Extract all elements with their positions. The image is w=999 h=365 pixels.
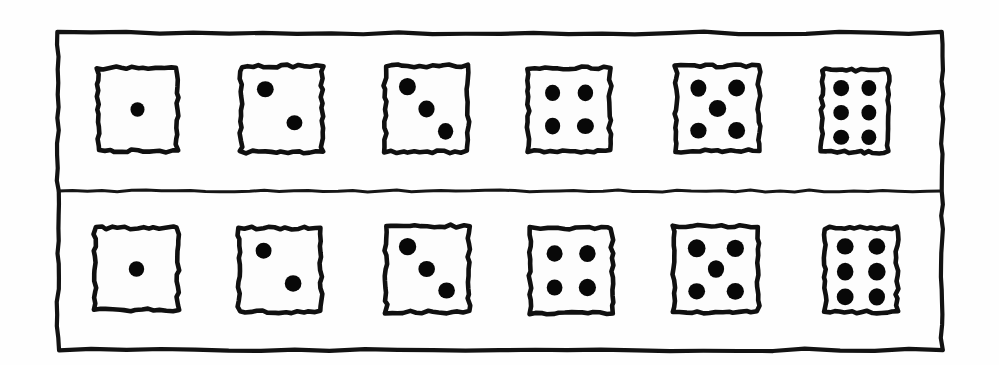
die-pip xyxy=(709,100,726,117)
bottom-row-die-one xyxy=(94,227,180,312)
top-row xyxy=(97,65,890,154)
die-pip xyxy=(545,85,560,101)
top-row-die-five xyxy=(675,65,761,153)
die-pip xyxy=(577,118,594,134)
die-pip xyxy=(579,279,596,296)
bottom-row-die-four xyxy=(529,227,614,314)
bottom-row-die-five xyxy=(673,225,760,313)
die-outline xyxy=(240,65,324,154)
die-pip xyxy=(547,245,563,261)
dice-figure xyxy=(0,0,999,365)
die-pip xyxy=(837,238,854,254)
die-pip xyxy=(868,263,886,281)
die-pip xyxy=(833,130,849,145)
die-pip xyxy=(256,243,272,259)
die-pip xyxy=(861,130,876,145)
die-outline xyxy=(529,227,614,314)
die-pip xyxy=(728,80,745,97)
die-pip xyxy=(690,123,706,139)
die-pip xyxy=(287,115,303,130)
die-pip xyxy=(869,288,885,305)
die-pip xyxy=(418,261,435,277)
die-pip xyxy=(861,105,876,121)
die-pip xyxy=(257,81,274,97)
die-pip xyxy=(545,118,560,135)
bottom-row-die-six xyxy=(824,227,899,314)
die-pip xyxy=(438,282,455,298)
die-pip xyxy=(861,80,876,96)
die-outline xyxy=(821,69,890,154)
die-pip xyxy=(727,240,744,257)
die-pip xyxy=(418,101,434,118)
row-divider-line xyxy=(58,190,941,192)
die-pip xyxy=(837,263,854,281)
die-outline xyxy=(824,227,899,314)
die-pip xyxy=(837,289,854,306)
die-pip xyxy=(399,78,416,95)
top-row-die-four xyxy=(527,67,612,153)
die-pip xyxy=(547,280,563,296)
die-pip xyxy=(129,261,144,277)
die-pip xyxy=(399,238,416,255)
die-pip xyxy=(727,283,744,300)
outer-frame xyxy=(57,32,944,351)
bottom-row-die-two xyxy=(238,227,323,313)
top-row-die-six xyxy=(821,69,890,154)
dice-figure-canvas xyxy=(0,0,999,365)
die-pip xyxy=(833,105,849,120)
die-outline xyxy=(527,67,612,153)
die-pip xyxy=(579,245,595,262)
die-pip xyxy=(690,79,706,96)
die-pip xyxy=(131,102,145,117)
die-pip xyxy=(578,84,593,101)
top-row-die-one xyxy=(97,67,179,153)
die-pip xyxy=(285,275,302,292)
top-row-die-two xyxy=(240,65,324,154)
die-pip xyxy=(438,123,453,140)
die-pip xyxy=(688,283,705,299)
die-pip xyxy=(708,260,724,278)
die-pip xyxy=(868,238,885,254)
top-row-die-three xyxy=(384,65,470,154)
die-pip xyxy=(833,80,849,96)
die-pip xyxy=(728,122,745,139)
die-outline xyxy=(238,227,323,313)
die-pip xyxy=(688,239,706,257)
bottom-row xyxy=(94,225,899,315)
bottom-row-die-three xyxy=(385,225,471,314)
